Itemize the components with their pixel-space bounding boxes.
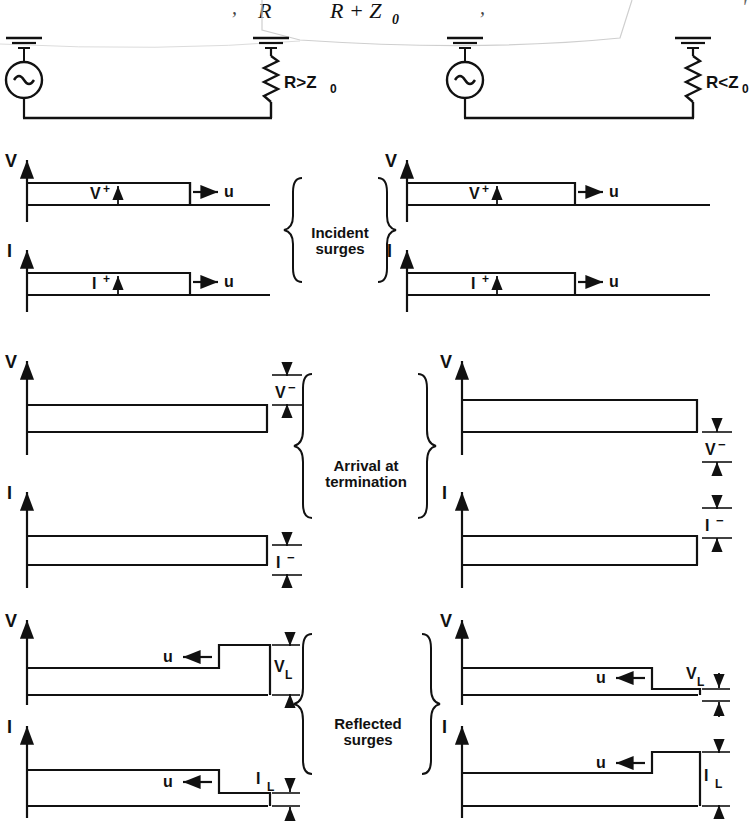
load-amplitude-marker-i: I L [702,739,730,819]
load-label-left-subscript: 0 [330,82,337,96]
load-amplitude-marker-v: V L [686,665,730,717]
wave-label-il: I [704,767,708,784]
velocity-label: u [609,183,619,200]
group-label-line-1: Incident [311,224,369,241]
velocity-label: u [596,669,606,686]
panel-reflected-i-right: I u I L [442,717,730,819]
velocity-label: u [609,273,619,290]
formula-comma-left: , [232,0,237,18]
wave-label-v-plus-sup: + [103,182,110,196]
group-label-line-1: Reflected [334,715,402,732]
panel-arrival-v-left: V V − [5,352,302,455]
axis-label-voltage: V [440,352,452,372]
resistor-symbol [264,56,278,102]
formula-right: R + Z [329,0,382,23]
group-label-reflected: Reflected surges [294,634,440,774]
axis-label-current: I [442,483,447,503]
circuit-left: R>Z 0 [6,38,337,118]
wave-label-vl-sub: L [285,668,292,682]
brace-left [294,374,312,518]
wave-label-i-plus: I [471,275,475,292]
group-label-line-2: surges [315,240,364,257]
group-label-line-1: Arrival at [333,457,398,474]
formula-left: R [257,0,272,23]
reflected-amplitude-marker-i: I − [272,532,302,588]
reflected-amplitude-marker-i: I − [702,496,732,552]
reflected-step-waveform [27,770,270,806]
group-label-line-2: surges [343,731,392,748]
wave-label-v-minus-sup: − [288,380,296,395]
full-pulse [27,405,267,432]
ground-symbol [6,38,42,48]
axis-label-current: I [7,483,12,503]
formula-fragment: R R + Z 0 , , ' [0,0,747,47]
full-pulse [27,536,267,565]
velocity-label: u [596,754,606,771]
wave-label-v-minus: V [275,384,286,401]
brace-right [422,634,440,774]
reflected-step-waveform [462,668,700,695]
brace-right [418,374,436,518]
wave-label-v-plus: V [90,185,101,202]
velocity-label: u [224,273,234,290]
group-label-line-2: termination [325,473,407,490]
axis-label-voltage: V [440,611,452,631]
velocity-label: u [163,648,173,665]
wave-label-i-minus: I [705,517,709,534]
panel-arrival-i-right: I I − [442,483,732,588]
panel-reflected-v-right: V u V L [440,611,730,717]
formula-comma-right: , [480,0,485,18]
load-label-right: R<Z [706,73,739,92]
wave-label-il: I [256,770,260,787]
full-pulse [462,536,697,565]
wave-label-i-minus-sup: − [716,513,724,528]
formula-right-subscript: 0 [392,12,399,27]
wave-label-i-plus: I [92,275,96,292]
ac-source [6,62,42,98]
load-label-right-subscript: 0 [742,82,749,96]
incident-pulse [407,183,575,205]
resistor-symbol [686,56,700,102]
panel-arrival-v-right: V V − [440,352,732,476]
wave-label-vl: V [686,665,697,682]
panel-incident-i-left: I I + u [7,241,270,312]
axis-label-voltage: V [5,151,17,171]
panel-incident-v-right: V V + u [385,151,710,222]
paper-edge-line-2 [0,41,300,47]
group-label-arrival: Arrival at termination [294,374,436,518]
reflected-amplitude-marker-v: V − [702,418,732,476]
full-pulse [462,400,697,432]
panel-incident-v-left: V V + u [5,151,270,222]
panel-arrival-i-left: I I − [7,483,302,588]
panel-reflected-i-left: I u I L [7,717,300,821]
load-amplitude-marker-i: I L [256,770,300,821]
ac-source [447,62,483,98]
group-label-incident: Incident surges [284,178,396,282]
axis-label-current: I [7,717,12,737]
figure-sheet: R R + Z 0 , , ' [0,0,752,826]
panel-reflected-v-left: V u V L [5,611,300,708]
load-amplitude-marker-v: V L [272,632,300,708]
velocity-label: u [163,773,173,790]
wave-label-v-plus: V [469,185,480,202]
ground-symbol [253,38,289,48]
incident-pulse [407,273,575,295]
wave-label-vl-sub: L [697,675,704,689]
axis-label-voltage: V [5,611,17,631]
reflected-amplitude-marker-v: V − [272,362,302,418]
wave-label-il-sub: L [267,780,274,794]
formula-edge-mark: ' [742,0,747,18]
reflected-step-waveform [462,752,700,806]
surge-diagram: R R + Z 0 , , ' [0,0,752,826]
wave-label-v-minus: V [705,441,716,458]
wave-label-i-minus: I [276,554,280,571]
wave-label-i-plus-sup: + [103,272,110,286]
brace-left [294,634,312,774]
wave-label-vl: V [274,658,285,675]
axis-label-current: I [7,241,12,261]
wave-label-v-minus-sup: − [718,437,726,452]
axis-label-voltage: V [5,352,17,372]
panel-incident-i-right: I I + u [387,241,710,312]
wave-label-i-minus-sup: − [287,550,295,565]
axis-label-current: I [442,717,447,737]
